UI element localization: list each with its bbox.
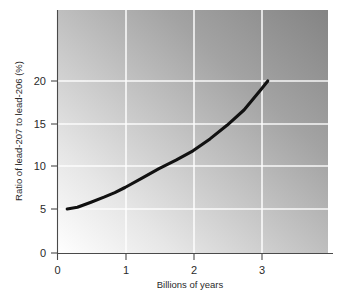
- y-tick-marks: [51, 81, 57, 253]
- x-tick-label-2: 2: [191, 264, 197, 276]
- x-tick-label-1: 1: [123, 264, 129, 276]
- y-tick-label-5: 5: [40, 203, 46, 215]
- chart-figure: 20 15 10 5 0 0 1 2 3 Billions of years R…: [0, 0, 338, 291]
- y-tick-label-20: 20: [34, 75, 46, 87]
- x-axis-title: Billions of years: [157, 279, 224, 290]
- y-axis-title: Ratio of lead-207 to lead-206 (%): [13, 61, 24, 201]
- line-chart: 20 15 10 5 0 0 1 2 3 Billions of years R…: [0, 0, 338, 291]
- y-tick-labels: 20 15 10 5 0: [34, 75, 46, 259]
- plot-background: [57, 10, 328, 253]
- y-tick-label-15: 15: [34, 118, 46, 130]
- x-tick-label-0: 0: [54, 264, 60, 276]
- x-tick-labels: 0 1 2 3: [54, 264, 265, 276]
- y-tick-label-10: 10: [34, 160, 46, 172]
- y-tick-label-0: 0: [40, 247, 46, 259]
- x-tick-label-3: 3: [259, 264, 265, 276]
